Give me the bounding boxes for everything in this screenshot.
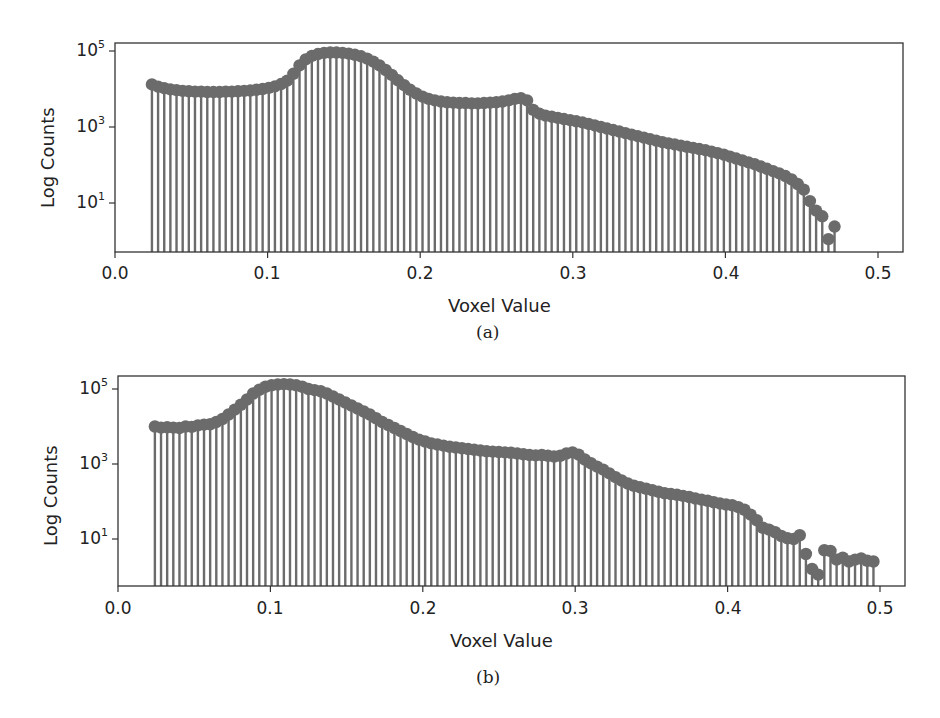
x-axis-label-b: Voxel Value: [450, 630, 553, 651]
x-tick-b-0: 0.0: [104, 598, 131, 618]
y-tick-b-1e1: 101: [58, 527, 108, 548]
x-tick-b-5: 0.5: [866, 598, 893, 618]
x-tick-b-3: 0.3: [561, 598, 588, 618]
stems-b: [155, 384, 874, 586]
x-tick-b-1: 0.1: [256, 598, 283, 618]
caption-b: (b): [476, 667, 500, 687]
x-tick-b-2: 0.2: [409, 598, 436, 618]
y-tick-b-1e3: 103: [58, 452, 108, 473]
stem-plot-b: [0, 0, 940, 718]
x-tick-b-4: 0.4: [714, 598, 741, 618]
figure-b: Log Counts 105 103 101 0.0 0.1 0.2 0.3 0…: [0, 0, 940, 718]
y-tick-b-1e5: 105: [58, 377, 108, 398]
